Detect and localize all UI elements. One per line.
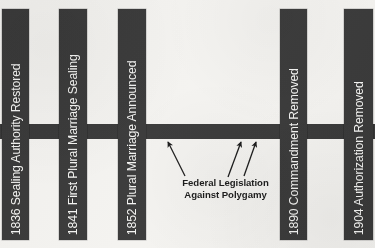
annotation-label: Federal Legislation Against Polygamy — [168, 177, 283, 200]
arrow-right — [244, 142, 256, 176]
annotation-line-1: Federal Legislation — [168, 177, 283, 189]
timeline-diagram: 1836 Sealing Authority Restored 1841 Fir… — [0, 0, 375, 248]
annotation-line-2: Against Polygamy — [168, 189, 283, 201]
arrow-middle — [228, 142, 241, 177]
arrow-left — [168, 142, 185, 176]
annotation-arrows — [0, 0, 375, 248]
